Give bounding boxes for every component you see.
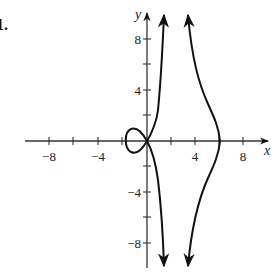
exercise-number: 1. (0, 16, 8, 33)
plot-area: 1. −8 −4 4 8 8 4 −4 −8 x y (0, 0, 279, 278)
x-tick-label: −8 (42, 149, 56, 164)
y-tick-label: 8 (135, 32, 142, 47)
y-tick-label: 4 (135, 83, 142, 98)
curve-left-upper (147, 15, 164, 141)
x-tick-label: 8 (240, 149, 247, 164)
curve-right-upper (188, 15, 220, 141)
curve-left-lower (147, 141, 164, 266)
x-tick-label: 4 (192, 149, 199, 164)
y-tick-label: −8 (127, 236, 141, 251)
x-axis-label: x (263, 143, 271, 158)
y-axis-label: y (133, 7, 142, 22)
y-tick-label: −4 (127, 185, 141, 200)
x-tick-label: −4 (91, 149, 105, 164)
